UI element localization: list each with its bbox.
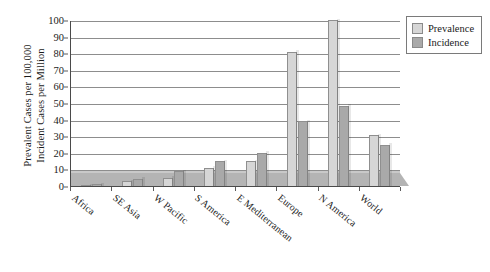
legend-item-label: Prevalence bbox=[428, 23, 474, 34]
legend-swatch-icon bbox=[412, 37, 423, 48]
y-tick-label: 10 bbox=[54, 165, 65, 175]
x-tick-mark bbox=[153, 187, 154, 191]
x-axis-label-europe: Europe bbox=[276, 192, 306, 219]
bar-group bbox=[277, 21, 318, 186]
y-tick-mark bbox=[64, 21, 68, 22]
y-tick-label: 90 bbox=[54, 33, 65, 43]
bar-groups bbox=[71, 21, 400, 186]
bar-chart: Prevalent Cases per 100,000 Incident Cas… bbox=[0, 0, 490, 272]
x-tick-mark bbox=[400, 187, 401, 191]
y-tick-label: 80 bbox=[54, 49, 65, 59]
bar-group bbox=[153, 21, 194, 186]
bar-prevalence[interactable] bbox=[163, 178, 173, 186]
y-tick-label: 60 bbox=[54, 82, 65, 92]
bar-incidence[interactable] bbox=[133, 179, 143, 186]
x-axis-label-africa: Africa bbox=[70, 192, 97, 217]
plot-area bbox=[70, 21, 400, 187]
bar-incidence[interactable] bbox=[298, 121, 308, 186]
y-tick-mark bbox=[64, 104, 68, 105]
x-tick-mark bbox=[235, 187, 236, 191]
bar-incidence[interactable] bbox=[92, 184, 102, 186]
bar-group bbox=[318, 21, 359, 186]
y-tick-label: 30 bbox=[54, 132, 65, 142]
bar-group bbox=[359, 21, 400, 186]
bar-prevalence[interactable] bbox=[246, 161, 256, 186]
legend-item-prevalence[interactable]: Prevalence bbox=[412, 21, 474, 35]
x-axis-label-se-asia: SE Asia bbox=[111, 192, 143, 221]
bar-incidence[interactable] bbox=[339, 106, 349, 187]
y-tick-label: 70 bbox=[54, 66, 65, 76]
bar-prevalence[interactable] bbox=[328, 20, 338, 186]
x-axis-category-labels: AfricaSE AsiaW PacificS AmericaE Mediter… bbox=[70, 192, 410, 270]
bar-prevalence[interactable] bbox=[204, 168, 214, 186]
x-axis-label-s-america: S America bbox=[193, 192, 233, 228]
legend-item-label: Incidence bbox=[428, 37, 469, 48]
y-tick-mark bbox=[64, 87, 68, 88]
x-tick-mark bbox=[359, 187, 360, 191]
bar-prevalence[interactable] bbox=[287, 52, 297, 186]
y-tick-mark bbox=[64, 54, 68, 55]
bar-prevalence[interactable] bbox=[369, 135, 379, 186]
legend-swatch-icon bbox=[412, 23, 423, 34]
y-tick-mark bbox=[64, 137, 68, 138]
y-axis-tick-labels: 0102030405060708090100 bbox=[44, 14, 68, 194]
y-tick-mark bbox=[64, 187, 68, 188]
y-tick-mark bbox=[64, 37, 68, 38]
bar-incidence[interactable] bbox=[174, 171, 184, 186]
y-tick-label: 100 bbox=[48, 16, 64, 26]
bar-incidence[interactable] bbox=[215, 161, 225, 186]
chart-legend: PrevalenceIncidence bbox=[406, 16, 482, 54]
bar-group bbox=[112, 21, 153, 186]
y-tick-label: 40 bbox=[54, 116, 65, 126]
x-axis-label-w-pacific: W Pacific bbox=[152, 192, 190, 226]
bar-group bbox=[71, 21, 112, 186]
bar-group bbox=[236, 21, 277, 186]
bar-prevalence[interactable] bbox=[81, 185, 91, 186]
y-tick-mark bbox=[64, 153, 68, 154]
x-axis-label-n-america: N America bbox=[317, 192, 359, 229]
x-tick-mark bbox=[111, 187, 112, 191]
y-tick-label: 20 bbox=[54, 149, 65, 159]
y-tick-mark bbox=[64, 170, 68, 171]
y-tick-mark bbox=[64, 70, 68, 71]
x-tick-mark bbox=[194, 187, 195, 191]
legend-item-incidence[interactable]: Incidence bbox=[412, 35, 474, 49]
bar-prevalence[interactable] bbox=[122, 181, 132, 186]
y-tick-label: 50 bbox=[54, 99, 65, 109]
y-axis-title: Prevalent Cases per 100,000 Incident Cas… bbox=[8, 18, 44, 193]
bar-group bbox=[194, 21, 235, 186]
bar-incidence[interactable] bbox=[257, 153, 267, 186]
x-tick-mark bbox=[70, 187, 71, 191]
x-axis-label-world: World bbox=[358, 192, 385, 216]
chart-floor-right-wedge bbox=[400, 173, 409, 186]
x-tick-mark bbox=[276, 187, 277, 191]
bar-incidence[interactable] bbox=[380, 145, 390, 187]
y-tick-mark bbox=[64, 120, 68, 121]
x-tick-mark bbox=[318, 187, 319, 191]
